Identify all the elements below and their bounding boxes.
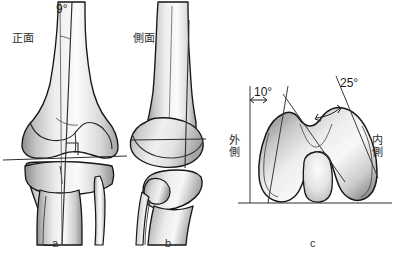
anatomy-illustration-svg — [0, 0, 395, 260]
femur-anterior — [22, 2, 118, 158]
view-label-anterior: 正面 — [12, 33, 34, 44]
angle-label-9deg: 9° — [56, 3, 67, 15]
panel-label-a: a — [52, 238, 58, 249]
side-label-medial: 内側 — [371, 134, 382, 158]
angle-label-10deg: 10° — [254, 86, 272, 98]
view-label-lateral: 側面 — [133, 33, 155, 44]
panel-label-b: b — [165, 238, 171, 249]
anatomy-figure: 正面 9° 側面 10° 25° 外側 内側 a b c — [0, 0, 395, 260]
fibula-anterior — [94, 176, 105, 245]
angle-label-25deg: 25° — [340, 77, 358, 89]
panel-label-c: c — [310, 238, 316, 249]
femoral-condyle-lateral — [130, 118, 203, 168]
intercondylar-notch — [303, 152, 332, 202]
side-label-lateral: 外側 — [228, 134, 239, 158]
